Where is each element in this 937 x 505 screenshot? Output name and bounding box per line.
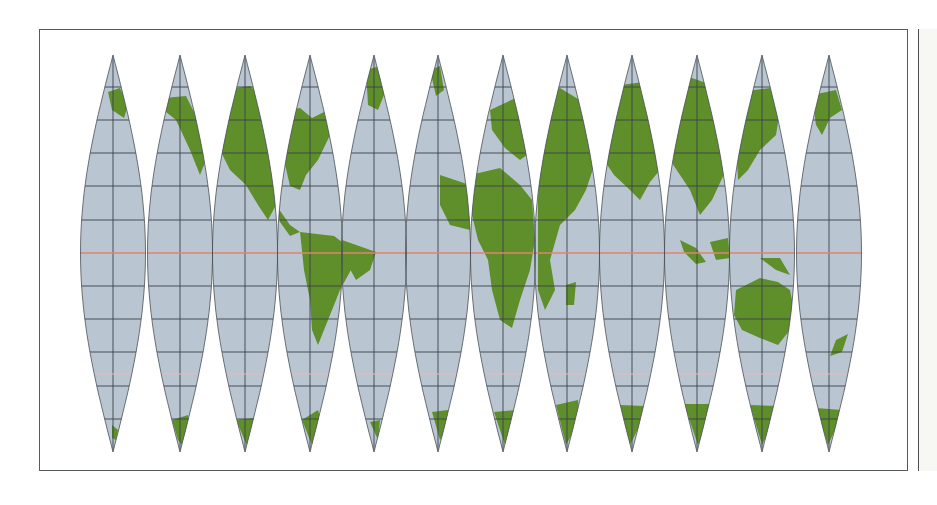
landmass [750, 405, 778, 445]
